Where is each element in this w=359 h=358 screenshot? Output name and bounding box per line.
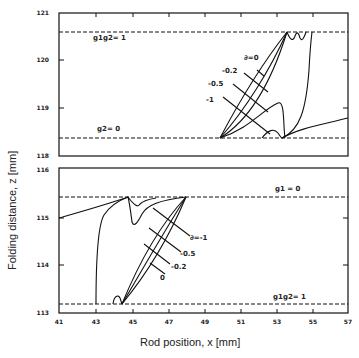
top-curves <box>220 32 348 138</box>
label-g1g2-top: g1g2= 1 <box>93 34 126 42</box>
curve-label-top-2: -0.5 <box>208 80 223 88</box>
label-g2: g2= 0 <box>97 125 120 133</box>
xtick-51: 51 <box>237 318 245 325</box>
curve-label-bottom-0: ∂=-1 <box>190 234 208 242</box>
xtick-41: 41 <box>55 318 63 325</box>
curve-label-top-1: -0.2 <box>222 67 237 75</box>
x-axis-label: Rod position, x [mm] <box>140 336 240 348</box>
ytick-115: 115 <box>36 214 49 221</box>
xtick-43: 43 <box>92 318 100 325</box>
curve-label-top-0: ∂=0 <box>244 54 259 62</box>
xtick-57: 57 <box>344 318 352 325</box>
xtick-55: 55 <box>309 318 317 325</box>
y-axis-label: Folding distance, z [mm] <box>6 151 18 270</box>
label-g1: g1 = 0 <box>275 185 301 193</box>
curve-label-bottom-2: -0.2 <box>171 263 186 271</box>
ytick-119: 119 <box>36 104 49 111</box>
xtick-47: 47 <box>165 318 173 325</box>
curve-label-bottom-1: -0.5 <box>180 250 195 258</box>
ytick-118: 118 <box>36 152 49 159</box>
bottom-curves <box>59 197 190 304</box>
xtick-53: 53 <box>273 318 281 325</box>
ytick-120: 120 <box>36 56 49 63</box>
xtick-45: 45 <box>129 318 137 325</box>
ytick-114: 114 <box>36 261 49 268</box>
ytick-116: 116 <box>36 166 49 173</box>
curve-label-top-3: -1 <box>206 96 214 104</box>
ytick-113: 113 <box>36 309 49 316</box>
chart: 121 120 119 118 116 115 114 113 41 43 45… <box>0 0 359 358</box>
ytick-121: 121 <box>36 9 49 16</box>
xtick-49: 49 <box>201 318 209 325</box>
label-g1g2-bottom: g1g2= 1 <box>273 293 306 301</box>
curve-label-bottom-3: 0 <box>160 274 165 282</box>
